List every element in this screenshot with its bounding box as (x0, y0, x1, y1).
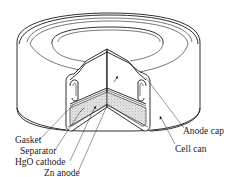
label-gasket: Gasket (15, 135, 42, 145)
label-separator: Separator (20, 146, 57, 156)
button-cell-diagram: Gasket Separator HgO cathode Zn anode An… (0, 0, 242, 177)
label-anode-cap: Anode cap (183, 126, 224, 136)
label-hgo-cathode: HgO cathode (15, 157, 65, 167)
label-cell-can: Cell can (175, 144, 207, 154)
label-zn-anode: Zn anode (44, 168, 80, 177)
